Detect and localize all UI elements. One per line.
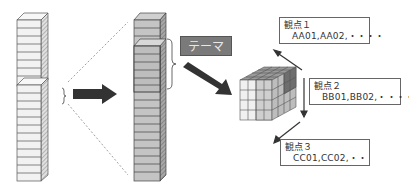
perspective-title: 観点２: [314, 81, 396, 92]
expanded-data-column: [134, 13, 166, 181]
data-cube: [240, 67, 296, 120]
perspective-values: AA01,AA02,・・・・: [284, 31, 365, 42]
perspective-title: 観点１: [284, 20, 365, 31]
zoom-guide-bottom: [68, 104, 128, 175]
zoom-guide-top: [68, 22, 128, 82]
selection-bracket-small: [62, 88, 66, 104]
perspective-values: CC01,CC02,・・: [285, 153, 365, 164]
perspective-title: 観点３: [285, 142, 365, 153]
right-arrow-icon: [73, 84, 117, 104]
selection-bracket-theme: [167, 39, 176, 89]
theme-label: テーマ: [180, 36, 232, 56]
perspective-box-3: 観点３ CC01,CC02,・・: [280, 139, 370, 166]
perspective-box-2: 観点２ BB01,BB02,・・・・: [309, 78, 401, 105]
source-data-column: [17, 13, 48, 181]
perspective-values: BB01,BB02,・・・・: [314, 92, 396, 103]
diagonal-arrow-icon: [183, 62, 232, 95]
perspective-box-1: 観点１ AA01,AA02,・・・・: [279, 17, 370, 44]
